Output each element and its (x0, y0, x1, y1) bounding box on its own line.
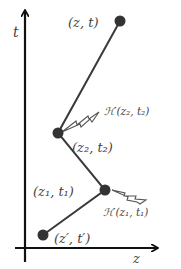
path-line (43, 21, 120, 235)
point-p2 (53, 128, 64, 139)
point-end-label: (z, t) (68, 15, 98, 30)
kick1-label: ℋ′(z₁, t₁) (103, 206, 148, 218)
path-diagram: t z (z, t) (z₂, t₂) (z₁, t₁) (z′, t′) ℋ′… (0, 0, 181, 269)
t-axis-label: t (13, 24, 19, 40)
kick2-label: ℋ′(z₂, t₂) (104, 105, 149, 117)
z-axis-label: z (132, 251, 140, 266)
point-p2-label: (z₂, t₂) (72, 140, 113, 155)
point-start-label: (z′, t′) (54, 231, 90, 246)
point-p1-label: (z₁, t₁) (33, 184, 74, 199)
point-start (38, 230, 49, 241)
diagram-svg: t z (z, t) (z₂, t₂) (z₁, t₁) (z′, t′) ℋ′… (0, 0, 181, 269)
point-p1 (100, 185, 111, 196)
point-end (115, 16, 126, 27)
lightning-icon (112, 190, 146, 204)
